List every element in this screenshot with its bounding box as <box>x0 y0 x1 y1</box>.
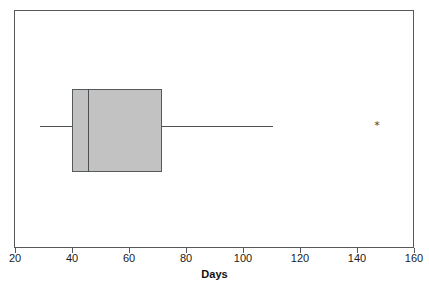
x-axis-label: Days <box>0 268 429 280</box>
boxplot-figure: * 20406080100120140160 Days <box>0 0 429 288</box>
x-tick-label: 120 <box>280 252 320 265</box>
x-tick-label: 100 <box>223 252 263 265</box>
x-tick-label: 140 <box>337 252 377 265</box>
chart-title <box>0 0 429 9</box>
x-tick-label: 80 <box>166 252 206 265</box>
box-iqr <box>72 89 162 172</box>
x-tick-label: 160 <box>394 252 429 265</box>
x-tick-label: 60 <box>109 252 149 265</box>
median-line <box>88 89 89 172</box>
x-tick-label: 40 <box>52 252 92 265</box>
whisker-right <box>162 126 273 127</box>
outlier-point: * <box>371 120 383 131</box>
whisker-left <box>40 126 72 127</box>
x-tick-label: 20 <box>0 252 35 265</box>
